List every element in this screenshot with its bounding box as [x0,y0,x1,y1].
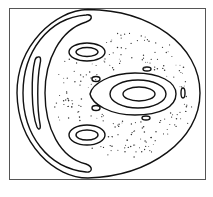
scatter-dot [176,65,177,66]
scatter-dot [104,58,105,59]
scatter-dot [186,106,188,108]
scatter-dot [173,76,174,77]
scatter-dot [96,118,97,119]
scatter-dot [67,78,68,79]
scatter-dot [71,106,73,108]
scatter-dot [164,119,165,120]
scatter-dot [88,87,89,88]
scatter-dot [104,61,105,62]
scatter-dot [146,141,147,142]
scatter-dot [101,116,102,117]
scatter-dot [114,126,115,127]
scatter-dot [86,74,87,75]
scatter-dot [144,140,145,141]
scatter-dot [121,38,122,39]
scatter-dot [66,91,67,92]
scatter-dot [111,150,112,151]
scatter-dot [182,73,183,74]
scatter-dot [186,105,187,106]
scatter-dot [63,100,65,102]
scatter-dot [118,126,119,127]
scatter-dot [180,86,181,87]
scatter-dot [64,61,65,62]
scatter-dot [92,63,93,64]
scatter-dot [148,146,149,147]
scatter-dot [145,36,146,37]
scatter-dot [90,115,91,116]
scatter-dot [130,146,132,148]
scatter-dot [102,114,103,115]
scatter-dot [124,151,125,152]
scatter-dot [79,116,81,118]
scatter-dot [127,140,128,141]
scatter-dot [79,120,80,121]
central-island-middle [110,80,166,108]
scatter-dot [129,33,130,34]
scatter-dot [191,106,192,107]
scatter-dot [111,40,112,41]
central-island-outer [90,73,176,115]
scatter-dot [63,104,64,105]
scatter-dot [155,42,156,43]
upper-island-outer [69,43,105,61]
scatter-dot [142,59,143,60]
scatter-dot [125,48,126,49]
scatter-dot [107,154,108,155]
scatter-dot [140,121,141,122]
scatter-dot [74,81,75,82]
scatter-dot [69,58,70,59]
scatter-dot [174,124,175,125]
scatter-dot [139,147,140,148]
scatter-dot [141,151,142,152]
scatter-dot [148,40,150,42]
scatter-dot [147,62,148,63]
scatter-dot [128,147,129,148]
scatter-dot [83,76,84,77]
scatter-dot [103,147,104,148]
scatter-dot [120,54,121,55]
scatter-dot [160,120,161,121]
scatter-dot [133,145,134,146]
scatter-dot [154,66,155,67]
scatter-dot [90,77,92,79]
scatter-dot [155,140,156,141]
scatter-dot [137,40,138,41]
scatter-dot [124,34,125,35]
scatter-dot [131,134,132,135]
scatter-dot [175,126,176,127]
scatter-dot [121,47,122,48]
scatter-dot [112,67,113,68]
poincare-section-figure [0,0,213,197]
scatter-dot [68,100,70,102]
scatter-dot [120,61,121,62]
scatter-dot [104,61,105,62]
scatter-dot [184,104,185,105]
scatter-dot [166,52,167,53]
scatter-dot [176,118,177,119]
scatter-dot [59,120,60,121]
scatter-dot [144,131,146,133]
scatter-dot [143,55,144,56]
scatter-dot [147,39,148,40]
scatter-dot [171,56,172,57]
scatter-dot [117,47,118,48]
scatter-dot [185,81,186,82]
scatter-dot [103,120,104,121]
scatter-dot [149,62,150,63]
scatter-dot [66,92,68,94]
scatter-dot [180,72,181,73]
scatter-dot [68,98,69,99]
scatter-dot [120,35,121,36]
scatter-dot [96,65,97,66]
scatter-dot [80,74,81,75]
scatter-dot [125,145,126,146]
central-island-inner [123,87,155,101]
scatter-dot [135,151,136,152]
scatter-dot [58,74,59,75]
scatter-dot [124,147,125,148]
scatter-dot [74,71,75,72]
scatter-dot [78,111,79,112]
scatter-dot [157,68,159,70]
scatter-dot [142,127,143,128]
scatter-dot [72,103,73,104]
